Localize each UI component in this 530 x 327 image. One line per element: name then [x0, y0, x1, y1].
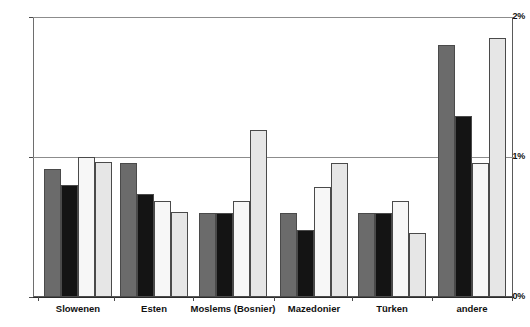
- bar: [314, 187, 331, 297]
- bar-group: [358, 18, 426, 297]
- bar: [78, 157, 95, 297]
- x-axis-tick-label: andere: [412, 303, 530, 314]
- bar: [120, 163, 137, 297]
- bar: [297, 230, 314, 297]
- bar: [233, 201, 250, 297]
- bar: [61, 185, 78, 297]
- bar: [409, 233, 426, 297]
- bar: [375, 213, 392, 297]
- bar: [392, 201, 409, 297]
- bar-group: [120, 18, 188, 297]
- bar: [44, 169, 61, 297]
- bar: [154, 201, 171, 297]
- bar-group: [44, 18, 112, 297]
- bar: [199, 213, 216, 297]
- bar: [455, 116, 472, 297]
- bar: [489, 38, 506, 297]
- bar: [216, 213, 233, 297]
- x-axis-tick-mark: [38, 297, 39, 301]
- bar: [250, 130, 267, 297]
- bar-group: [199, 18, 267, 297]
- x-axis-tick-mark: [274, 297, 275, 301]
- x-axis-tick-mark: [193, 297, 194, 301]
- x-axis-tick-mark: [352, 297, 353, 301]
- ytick-mark-1pct: [29, 157, 33, 158]
- bar-group: [280, 18, 348, 297]
- bar: [438, 45, 455, 297]
- bar: [331, 163, 348, 297]
- bar-group: [438, 18, 506, 297]
- x-axis-tick-mark: [114, 297, 115, 301]
- bar: [280, 213, 297, 297]
- bar: [95, 162, 112, 297]
- ytick-mark-0pct: [29, 297, 33, 298]
- bar: [472, 163, 489, 297]
- bar: [137, 194, 154, 297]
- bar: [171, 212, 188, 297]
- bar: [358, 213, 375, 297]
- plot-area: [34, 18, 513, 297]
- x-axis-tick-mark: [432, 297, 433, 301]
- ytick-mark-2pct: [29, 17, 33, 18]
- x-axis-tick-mark: [512, 297, 513, 301]
